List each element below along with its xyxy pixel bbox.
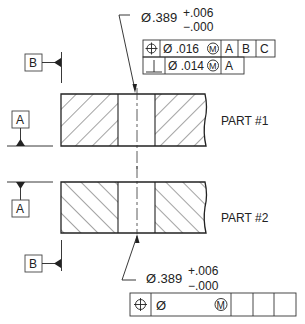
datum-b-bottom: B	[25, 240, 62, 272]
datum-b-top: B	[25, 52, 62, 83]
bottom-feature-control-frame	[130, 293, 296, 316]
drawing-canvas: Ø .389 +.006 −.000 Ø .016 M A B C Ø .014…	[0, 0, 305, 324]
svg-text:M: M	[209, 61, 217, 71]
mmc-modifier-icon: M	[208, 60, 219, 71]
top-upper-tol: +.006	[183, 6, 214, 20]
bottom-diameter-symbol: Ø	[146, 271, 156, 286]
fcf-row2-tolerance: Ø .014	[168, 59, 204, 73]
datum-a-part1: A	[7, 111, 53, 146]
position-icon	[134, 298, 147, 311]
part-2-section	[61, 182, 207, 233]
svg-text:B: B	[29, 257, 37, 271]
svg-text:M: M	[209, 44, 217, 54]
bottom-upper-tol: +.006	[188, 264, 219, 278]
part-1-label: PART #1	[221, 114, 269, 128]
fcf-row1-datum-c: C	[260, 42, 269, 56]
top-leader-line	[119, 15, 137, 93]
svg-text:A: A	[16, 113, 24, 127]
bottom-fcf-tolerance: Ø	[156, 298, 166, 313]
fcf-row1-datum-b: B	[242, 42, 250, 56]
fcf-row1-datum-a: A	[225, 42, 233, 56]
svg-text:A: A	[16, 202, 24, 216]
bottom-dimension: Ø .389 +.006 −.000	[146, 264, 219, 293]
part-2-label: PART #2	[221, 211, 269, 225]
top-lower-tol: −.000	[183, 20, 214, 34]
top-nominal: .389	[152, 10, 177, 25]
part-1-section	[61, 94, 207, 146]
svg-text:M: M	[217, 300, 225, 311]
mmc-modifier-icon: M	[215, 299, 227, 311]
bottom-nominal: .389	[157, 271, 182, 286]
fcf-row1-tolerance: Ø .016	[163, 42, 199, 56]
fcf-row2-datum-a: A	[225, 59, 233, 73]
svg-text:B: B	[29, 56, 37, 70]
datum-a-part2: A	[7, 182, 53, 217]
top-dimension: Ø .389 +.006 −.000	[141, 6, 214, 34]
bottom-leader-line	[122, 234, 140, 280]
top-diameter-symbol: Ø	[141, 10, 151, 25]
position-icon	[146, 43, 158, 55]
mmc-modifier-icon: M	[208, 43, 219, 54]
bottom-lower-tol: −.000	[188, 279, 219, 293]
perpendicularity-icon	[146, 60, 162, 72]
